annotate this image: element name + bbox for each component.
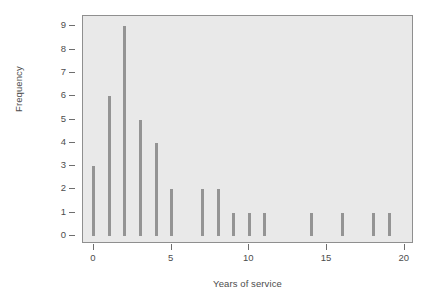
y-axis-tick bbox=[69, 142, 75, 143]
y-axis-tick bbox=[69, 95, 75, 96]
plot-area bbox=[83, 16, 412, 242]
bar bbox=[341, 213, 344, 236]
x-axis-tick-label: 10 bbox=[233, 253, 263, 263]
bar bbox=[263, 213, 266, 236]
bar bbox=[248, 213, 251, 236]
bar bbox=[372, 213, 375, 236]
x-axis-tick bbox=[171, 244, 172, 250]
plot-panel bbox=[82, 15, 413, 243]
x-axis-title: Years of service bbox=[82, 278, 413, 289]
x-axis-tick-label: 5 bbox=[156, 253, 186, 263]
bar bbox=[170, 189, 173, 236]
y-axis-tick-label: 9 bbox=[61, 20, 66, 30]
bar bbox=[139, 120, 142, 236]
y-axis-tick-label: 4 bbox=[61, 137, 66, 147]
y-axis-tick-label: 0 bbox=[61, 230, 66, 240]
bar bbox=[310, 213, 313, 236]
x-axis: 05101520 bbox=[82, 244, 413, 270]
y-axis-tick bbox=[69, 119, 75, 120]
x-axis-tick-label: 15 bbox=[311, 253, 341, 263]
y-axis-tick bbox=[69, 49, 75, 50]
x-axis-tick-label: 20 bbox=[389, 253, 419, 263]
y-axis: 0123456789 bbox=[0, 15, 75, 243]
y-axis-tick bbox=[69, 188, 75, 189]
x-axis-tick bbox=[404, 244, 405, 250]
bar bbox=[155, 143, 158, 236]
y-axis-tick bbox=[69, 25, 75, 26]
bar bbox=[388, 213, 391, 236]
y-axis-tick bbox=[69, 235, 75, 236]
bar bbox=[232, 213, 235, 236]
y-axis-tick-label: 2 bbox=[61, 183, 66, 193]
bar bbox=[201, 189, 204, 236]
x-axis-tick bbox=[326, 244, 327, 250]
y-axis-tick bbox=[69, 212, 75, 213]
y-axis-tick-label: 8 bbox=[61, 44, 66, 54]
y-axis-tick bbox=[69, 165, 75, 166]
histogram-figure: Frequency 0123456789 05101520 Years of s… bbox=[0, 0, 435, 306]
y-axis-tick-label: 1 bbox=[61, 207, 66, 217]
x-axis-tick-label: 0 bbox=[78, 253, 108, 263]
bar bbox=[123, 26, 126, 235]
y-axis-tick-label: 6 bbox=[61, 90, 66, 100]
y-axis-tick bbox=[69, 72, 75, 73]
y-axis-tick-label: 5 bbox=[61, 114, 66, 124]
bar bbox=[108, 96, 111, 236]
y-axis-tick-label: 3 bbox=[61, 160, 66, 170]
bar bbox=[92, 166, 95, 236]
x-axis-tick bbox=[248, 244, 249, 250]
x-axis-tick bbox=[93, 244, 94, 250]
y-axis-tick-label: 7 bbox=[61, 67, 66, 77]
bar bbox=[217, 189, 220, 236]
